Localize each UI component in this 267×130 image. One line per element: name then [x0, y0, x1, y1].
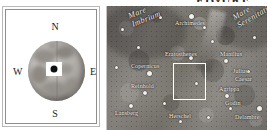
- map-label-archimedes: Archimedes: [175, 20, 205, 27]
- map-label-agrippa: Agrippa: [219, 86, 239, 93]
- region-of-interest-marker: [46, 62, 62, 76]
- map-label-julius: Julius: [233, 68, 248, 75]
- compass-label-east: E: [90, 67, 96, 77]
- crater-dot: [115, 66, 118, 69]
- map-label-godin: Godin: [225, 100, 241, 107]
- region-marker-dot: [51, 66, 58, 73]
- map-label-eratosthenes: Eratosthenes: [165, 51, 197, 58]
- map-label-copernicus: Copernicus: [131, 63, 159, 70]
- crater-dot: [253, 36, 256, 39]
- lunar-surface-map-panel: ArchimedesEratosthenesCopernicusManilius…: [106, 6, 267, 130]
- figure-caption-fragment: FIGURE: [196, 0, 266, 2]
- crater-dot-lansberg: [129, 104, 133, 108]
- detail-selection-rectangle[interactable]: [173, 63, 206, 100]
- crater-dot-godin: [229, 107, 232, 110]
- map-label-delambre: Delambre: [235, 114, 259, 121]
- compass-label-north: N: [51, 22, 58, 32]
- crater-dot: [257, 106, 262, 111]
- map-label-caesar: Caesar: [235, 76, 252, 83]
- crater-dot-copernicus: [147, 71, 152, 76]
- map-label-lansberg: Lansberg: [115, 110, 138, 117]
- locator-inner-frame: N S W E: [5, 9, 97, 124]
- map-label-herschel: Herschel: [169, 113, 191, 120]
- lunar-map-figure: FIGURE N S W E: [0, 0, 267, 130]
- crater-dot: [137, 46, 140, 49]
- crater-dot-manilius: [224, 59, 228, 63]
- crater-dot-reinhold: [143, 91, 147, 95]
- compass-label-west: W: [13, 67, 22, 77]
- crater-dot-archimedes: [189, 14, 194, 19]
- crater-dot-herschel: [179, 120, 182, 123]
- crater-dot: [207, 116, 210, 119]
- crater-dot: [211, 40, 214, 43]
- compass-label-south: S: [52, 109, 58, 119]
- crater-dot: [121, 28, 124, 31]
- crater-dot: [163, 102, 166, 105]
- map-label-reinhold: Reinhold: [131, 83, 154, 90]
- crater-dot-agrippa: [225, 94, 229, 98]
- moon-globe-locator-panel: N S W E: [2, 6, 100, 127]
- map-label-manilius: Manilius: [220, 51, 242, 58]
